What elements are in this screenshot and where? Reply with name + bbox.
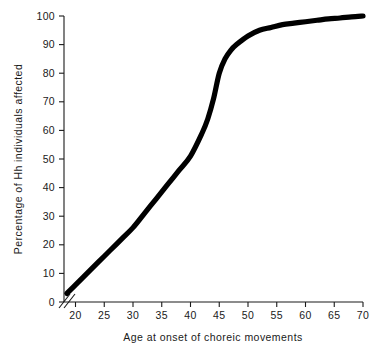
y-tick-label: 30 (43, 210, 55, 222)
y-tick-label: 100 (37, 10, 55, 22)
x-tick-label: 30 (127, 309, 139, 321)
x-axis-tick-marks (76, 302, 364, 307)
y-tick-label: 50 (43, 153, 55, 165)
y-axis-tick-marks (59, 16, 64, 302)
y-axis: 0102030405060708090100 (37, 10, 64, 308)
x-axis-title: Age at onset of choreic movements (123, 331, 302, 343)
x-axis: 2025303540455055606570 (59, 294, 369, 321)
axis-break-icon (59, 294, 75, 308)
x-tick-label: 65 (328, 309, 340, 321)
y-tick-label: 10 (43, 267, 55, 279)
y-tick-label: 90 (43, 38, 55, 50)
data-series (67, 16, 363, 293)
x-tick-label: 50 (242, 309, 254, 321)
x-tick-label: 35 (156, 309, 168, 321)
x-tick-label: 60 (299, 309, 311, 321)
x-tick-label: 70 (357, 309, 369, 321)
y-tick-label: 20 (43, 238, 55, 250)
y-tick-label: 80 (43, 67, 55, 79)
x-tick-label: 45 (213, 309, 225, 321)
chart-figure: 0102030405060708090100 20253035404550556… (0, 0, 381, 348)
y-axis-title: Percentage of Hh individuals affected (12, 64, 24, 254)
x-tick-label: 20 (69, 309, 81, 321)
y-tick-label: 60 (43, 124, 55, 136)
chart-canvas: 0102030405060708090100 20253035404550556… (0, 0, 381, 348)
y-tick-label: 70 (43, 95, 55, 107)
x-tick-label: 55 (271, 309, 283, 321)
y-axis-tick-labels: 0102030405060708090100 (37, 10, 55, 308)
line-series-cumulative-percentage-affected (67, 16, 363, 293)
y-tick-label: 40 (43, 181, 55, 193)
x-axis-tick-labels: 2025303540455055606570 (69, 309, 369, 321)
y-tick-label: 0 (49, 296, 55, 308)
x-tick-label: 25 (98, 309, 110, 321)
x-tick-label: 40 (184, 309, 196, 321)
